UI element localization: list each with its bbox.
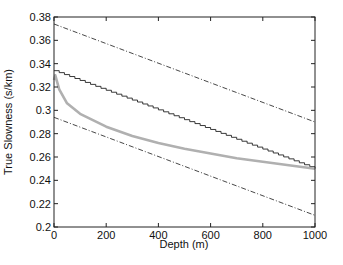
x-tick-label: 800: [254, 229, 272, 241]
x-axis-ticks: 02004006008001000: [51, 17, 327, 241]
y-axis-label: True Slowness (s/km): [2, 69, 14, 175]
y-tick-label: 0.3: [36, 104, 51, 116]
slowness-chart: 0.20.220.240.260.280.30.320.340.360.38 0…: [0, 0, 343, 265]
y-tick-label: 0.32: [30, 81, 51, 93]
y-tick-label: 0.34: [30, 58, 51, 70]
plot-frame: [54, 17, 315, 227]
x-tick-label: 1000: [303, 229, 327, 241]
series-upper-bound: [54, 24, 315, 122]
y-tick-label: 0.26: [30, 151, 51, 163]
y-tick-label: 0.2: [36, 221, 51, 233]
series-true-slowness: [54, 75, 315, 168]
plot-lines: [54, 24, 315, 215]
y-tick-label: 0.36: [30, 34, 51, 46]
y-tick-label: 0.22: [30, 198, 51, 210]
x-axis-label: Depth (m): [160, 238, 209, 250]
x-tick-label: 0: [51, 229, 57, 241]
y-tick-label: 0.24: [30, 174, 51, 186]
y-tick-label: 0.28: [30, 128, 51, 140]
x-tick-label: 200: [97, 229, 115, 241]
series-lower-bound: [54, 117, 315, 215]
y-tick-label: 0.38: [30, 11, 51, 23]
